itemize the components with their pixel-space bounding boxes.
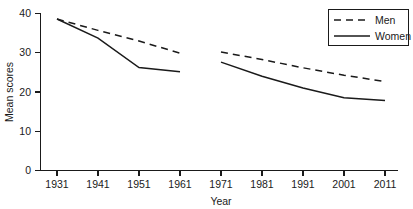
chart-canvas: 0 10 20 30 40 1931 1941 1951 1961 1971 1… — [0, 0, 413, 209]
x-axis-title: Year — [210, 195, 232, 207]
y-tick-label-20: 20 — [19, 86, 31, 98]
x-tick-label-1991: 1991 — [291, 178, 315, 190]
x-tick-label-2011: 2011 — [374, 178, 397, 190]
x-tick-label-1981: 1981 — [250, 178, 274, 190]
x-tick-label-2001: 2001 — [332, 178, 356, 190]
series-women-segment-1 — [57, 19, 180, 72]
y-tick-label-40: 40 — [19, 7, 31, 19]
y-tick-labels: 0 10 20 30 40 — [19, 7, 31, 176]
series-men-segment-2 — [221, 52, 385, 82]
y-tick-label-0: 0 — [25, 164, 31, 176]
series-men-segment-1 — [57, 19, 180, 53]
x-tick-labels: 1931 1941 1951 1961 1971 1981 1991 2001 … — [45, 178, 396, 190]
y-tick-label-10: 10 — [19, 125, 31, 137]
x-tick-label-1971: 1971 — [209, 178, 233, 190]
y-axis-title: Mean scores — [3, 62, 15, 122]
legend-label-men: Men — [375, 14, 396, 26]
x-tick-label-1931: 1931 — [45, 178, 69, 190]
x-tick-label-1961: 1961 — [168, 178, 192, 190]
x-tick-label-1941: 1941 — [86, 178, 110, 190]
line-chart: 0 10 20 30 40 1931 1941 1951 1961 1971 1… — [0, 0, 413, 209]
series-women-segment-2 — [221, 62, 385, 101]
chart-legend: Men Women — [329, 10, 412, 46]
legend-label-women: Women — [375, 30, 411, 42]
y-tick-label-30: 30 — [19, 46, 31, 58]
x-tick-label-1951: 1951 — [127, 178, 151, 190]
